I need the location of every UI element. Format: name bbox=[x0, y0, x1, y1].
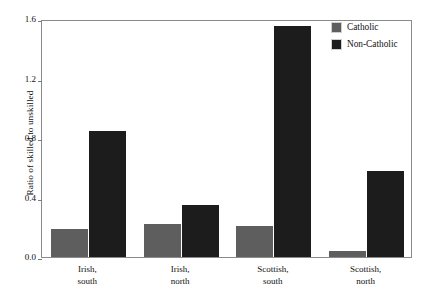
bar-chart-figure: Ratio of skilled to unskilled 0.00.40.81… bbox=[0, 0, 424, 296]
bar-series-layer bbox=[42, 21, 411, 257]
y-axis-tick-mark bbox=[38, 259, 42, 260]
bar-non-catholic bbox=[274, 26, 311, 257]
y-axis-tick-labels: 0.00.40.81.21.6 bbox=[8, 0, 36, 296]
bar-non-catholic bbox=[182, 205, 219, 257]
y-axis-tick-label: 0.4 bbox=[12, 194, 36, 203]
legend-item: Non-Catholic bbox=[331, 37, 417, 51]
x-axis-group-label: Scottish,south bbox=[223, 264, 323, 287]
bar-non-catholic bbox=[367, 171, 404, 257]
x-axis-group-label: Irish,north bbox=[130, 264, 230, 287]
legend-color-swatch bbox=[331, 22, 342, 33]
x-axis-group-label: Irish,south bbox=[37, 264, 137, 287]
bar-catholic bbox=[329, 251, 366, 257]
legend-label: Non-Catholic bbox=[347, 39, 398, 49]
y-axis-tick-label: 0.8 bbox=[12, 134, 36, 143]
x-axis-group-label: Scottish,north bbox=[316, 264, 416, 287]
y-axis-tick-label: 1.2 bbox=[12, 75, 36, 84]
y-axis-tick-label: 1.6 bbox=[12, 15, 36, 24]
legend-item: Catholic bbox=[331, 20, 417, 34]
legend-label: Catholic bbox=[347, 22, 379, 32]
bar-catholic bbox=[51, 229, 88, 257]
legend-color-swatch bbox=[331, 39, 342, 50]
chart-legend: CatholicNon-Catholic bbox=[331, 20, 417, 54]
y-axis-tick-label: 0.0 bbox=[12, 253, 36, 262]
bar-catholic bbox=[144, 224, 181, 257]
plot-area bbox=[41, 20, 412, 258]
bar-catholic bbox=[236, 226, 273, 257]
bar-non-catholic bbox=[89, 131, 126, 257]
